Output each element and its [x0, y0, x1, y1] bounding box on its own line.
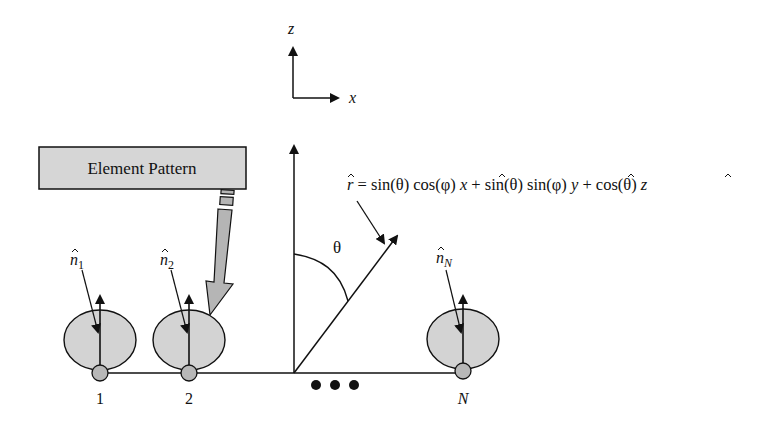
normal-label: n1: [70, 251, 84, 272]
element-node: [181, 365, 197, 381]
normal-label: nN: [436, 249, 453, 270]
theta-label: θ: [333, 238, 341, 257]
element-node: [92, 365, 108, 381]
element-index-label: 2: [185, 390, 193, 407]
element-pattern-box: Element Pattern: [39, 147, 246, 189]
r-hat-pointer: [357, 201, 384, 243]
ellipsis-dots: [311, 380, 359, 390]
element-pattern-label: Element Pattern: [87, 159, 197, 178]
x-axis-label: x: [348, 89, 356, 106]
array-diagram: z x Element Pattern θ r = sin(θ) cos(φ) …: [0, 0, 765, 425]
normal-label: n2: [160, 251, 174, 272]
element-index-label: N: [457, 390, 470, 407]
z-axis-label: z: [287, 20, 295, 37]
array-element-1: n1 1: [64, 249, 136, 407]
theta-arc: [294, 254, 348, 301]
array-element-n: nN N: [427, 247, 499, 407]
element-node: [455, 363, 471, 379]
r-hat-equation: r = sin(θ) cos(φ) x + sin(θ) sin(φ) y + …: [347, 175, 648, 194]
element-index-label: 1: [96, 390, 104, 407]
pattern-pointer-arrow: [206, 190, 234, 315]
direction-vector-arrow: [294, 236, 397, 373]
coordinate-legend: z x: [287, 20, 356, 106]
